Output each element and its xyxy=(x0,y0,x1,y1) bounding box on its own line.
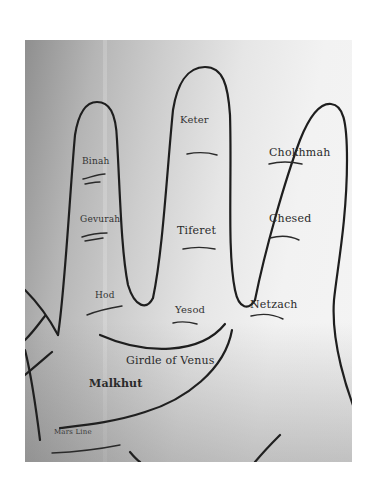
label-chesed: Chesed xyxy=(269,212,311,225)
label-keter: Keter xyxy=(180,114,209,125)
label-netzach: Netzach xyxy=(250,298,298,311)
label-chokhmah: Chokhmah xyxy=(269,146,331,159)
label-mars-line: Mars Line xyxy=(54,428,92,436)
hand-outline xyxy=(25,40,352,462)
label-malkhut: Malkhut xyxy=(89,377,143,390)
label-tiferet: Tiferet xyxy=(177,224,216,237)
label-hod: Hod xyxy=(95,290,115,300)
label-yesod: Yesod xyxy=(175,304,205,315)
label-girdle-of-venus: Girdle of Venus xyxy=(126,354,215,367)
label-binah: Binah xyxy=(82,156,109,166)
label-gevurah: Gevurah xyxy=(80,214,120,224)
hand-diagram-photo: Keter Binah Chokhmah Gevurah Tiferet Che… xyxy=(25,40,352,462)
